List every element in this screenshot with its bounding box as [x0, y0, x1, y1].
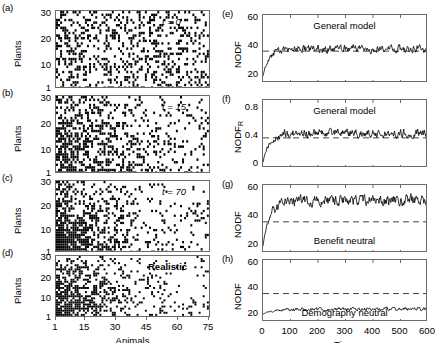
yaxis-label-text: NODF: [232, 41, 243, 68]
ytick-label: 30: [21, 92, 51, 103]
xtick-label: 75: [194, 321, 222, 332]
yaxis-label-text: NODF: [232, 211, 243, 238]
ytick-label: 60: [226, 256, 258, 267]
yaxis-label-text: NODF: [232, 126, 243, 153]
xtick-mark: [146, 317, 147, 320]
xtick-mark: [208, 317, 209, 320]
xtick-mark: [115, 317, 116, 320]
yaxis-label: Plants: [12, 278, 23, 304]
ytick-label: 30: [21, 7, 51, 18]
figure-canvas: (a)1102030Plantst = 0(b)1102030Plantst =…: [0, 0, 435, 343]
matrix-plot-b: [55, 95, 210, 173]
xtick-mark: [177, 317, 178, 320]
matrix-plot-a: [55, 10, 210, 88]
yaxis-label-subscript: R: [237, 121, 244, 126]
ytick-label: 20: [21, 118, 51, 129]
yaxis-label: NODF: [232, 283, 243, 310]
ytick-label: 10: [21, 59, 51, 70]
ytick-label: 10: [21, 292, 51, 303]
yaxis-label-text: NODF: [232, 283, 243, 310]
ytick-label: 20: [21, 272, 51, 283]
xtick-label: 15: [70, 321, 98, 332]
panel-letter-c: (c): [2, 172, 12, 183]
ytick-label: 30: [21, 251, 51, 262]
panel-title-h: Demography neutral: [301, 307, 387, 318]
xtick-label: 600: [411, 325, 435, 336]
ytick-label: 20: [226, 238, 258, 249]
ytick-label: 10: [21, 224, 51, 235]
xaxis-label: Animals: [109, 335, 157, 343]
ytick-label: 60: [226, 181, 258, 192]
panel-title-f: General model: [313, 105, 375, 116]
xtick-label: 1: [41, 321, 69, 332]
panel-annotation-d: Realistic: [148, 261, 187, 272]
panel-title-e: General model: [313, 20, 375, 31]
ytick-label: 0.8: [226, 101, 258, 112]
panel-title-g: Benefit neutral: [314, 235, 375, 246]
ytick-label: 20: [226, 68, 258, 79]
ytick-label: 30: [21, 176, 51, 187]
panel-annotation-b: t = 15: [162, 101, 186, 112]
panel-annotation-c: t = 70: [162, 186, 186, 197]
ytick-label: 20: [21, 200, 51, 211]
xtick-mark: [84, 317, 85, 320]
ytick-label: 0: [226, 157, 258, 168]
panel-letter-b: (b): [2, 87, 13, 98]
ytick-label: 20: [21, 33, 51, 44]
panel-letter-d: (d): [2, 247, 13, 258]
yaxis-label: NODF: [232, 211, 243, 238]
ytick-label: 60: [226, 11, 258, 22]
yaxis-label: NODFR: [232, 121, 244, 153]
panel-annotation-a: t = 0: [162, 16, 181, 27]
xaxis-label: Time: [321, 339, 369, 343]
ytick-label: 10: [21, 144, 51, 155]
xtick-label: 30: [101, 321, 129, 332]
xtick-label: 60: [163, 321, 191, 332]
yaxis-label: Plants: [12, 208, 23, 234]
yaxis-label: NODF: [232, 41, 243, 68]
yaxis-label: Plants: [12, 41, 23, 67]
panel-letter-a: (a): [2, 2, 13, 13]
xtick-mark: [55, 317, 56, 320]
xtick-label: 45: [132, 321, 160, 332]
yaxis-label: Plants: [12, 126, 23, 152]
matrix-plot-c: [55, 180, 210, 252]
